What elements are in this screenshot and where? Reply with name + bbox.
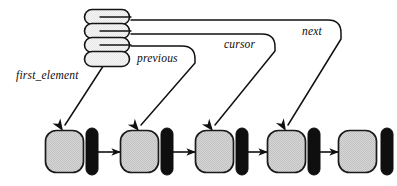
- node-data-cell: [339, 131, 377, 173]
- list-node-2: [121, 128, 174, 175]
- node-data-cell: [46, 131, 84, 173]
- label-previous: previous: [136, 52, 178, 65]
- node-link-cell: [308, 128, 320, 175]
- list-node-3: [196, 128, 249, 175]
- node-data-cell: [196, 131, 234, 173]
- label-first-element: first_element: [16, 69, 79, 82]
- node-data-cell: [121, 131, 159, 173]
- list-node-1: [46, 128, 99, 175]
- node-link-cell: [236, 128, 248, 175]
- list-node-4: [268, 128, 321, 175]
- node-link-cell: [161, 128, 173, 175]
- stack-layer-first-element: [85, 52, 130, 67]
- linked-list-diagram: first_element previous cursor next: [0, 0, 397, 186]
- node-data-cell: [268, 131, 306, 173]
- diagram-canvas: first_element previous cursor next: [0, 0, 397, 186]
- pointer-record-stack: [85, 10, 132, 67]
- label-cursor: cursor: [224, 38, 256, 50]
- node-chain: [46, 128, 394, 175]
- node-link-cell: [381, 128, 393, 175]
- label-next: next: [302, 25, 323, 37]
- list-node-5: [339, 128, 394, 175]
- node-link-cell: [86, 128, 98, 175]
